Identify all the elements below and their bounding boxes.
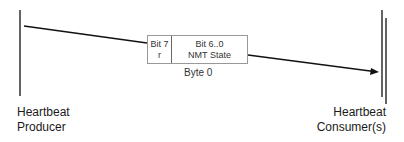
field-bit7-value: r — [148, 50, 171, 61]
heartbeat-message-frame: Bit 7 r Bit 6..0 NMT State — [147, 35, 248, 64]
arrowhead-icon — [370, 68, 379, 75]
message-line-in — [24, 26, 147, 43]
byte-label: Byte 0 — [184, 67, 212, 78]
producer-label-line2: Producer — [17, 120, 70, 135]
field-nmt-state: Bit 6..0 NMT State — [172, 36, 247, 63]
consumer-label-line1: Heartbeat — [317, 105, 386, 120]
field-nmt-value: NMT State — [172, 50, 247, 61]
field-nmt-title: Bit 6..0 — [172, 39, 247, 50]
consumer-label-line2: Consumer(s) — [317, 120, 386, 135]
message-line-out — [248, 55, 374, 72]
producer-label: Heartbeat Producer — [17, 105, 70, 135]
field-bit7-title: Bit 7 — [148, 39, 171, 50]
field-bit7: Bit 7 r — [148, 36, 172, 63]
consumer-label: Heartbeat Consumer(s) — [317, 105, 386, 135]
producer-label-line1: Heartbeat — [17, 105, 70, 120]
